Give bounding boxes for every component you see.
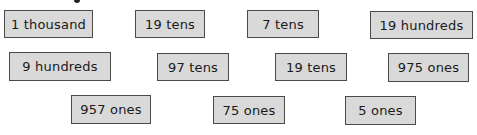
card-label: 19 tens: [286, 60, 336, 75]
cropped-heading-fragment: [74, 0, 80, 3]
card-label: 957 ones: [80, 102, 142, 117]
card-label: 5 ones: [358, 103, 403, 118]
value-card-7-tens: 7 tens: [247, 10, 319, 38]
value-card-957-ones: 957 ones: [71, 95, 151, 124]
card-label: 1 thousand: [11, 17, 86, 32]
value-card-19-tens-second: 19 tens: [275, 53, 347, 81]
value-card-75-ones: 75 ones: [213, 96, 285, 124]
card-label: 7 tens: [262, 17, 304, 32]
card-label: 19 tens: [145, 17, 195, 32]
value-card-97-tens: 97 tens: [157, 53, 229, 81]
value-card-19-tens: 19 tens: [135, 10, 205, 38]
value-card-9-hundreds: 9 hundreds: [9, 52, 111, 81]
card-label: 97 tens: [168, 60, 218, 75]
value-card-975-ones: 975 ones: [388, 53, 469, 82]
card-label: 19 hundreds: [380, 18, 464, 33]
value-card-1-thousand: 1 thousand: [4, 10, 93, 38]
value-card-5-ones: 5 ones: [345, 96, 416, 125]
card-label: 9 hundreds: [22, 59, 97, 74]
card-label: 975 ones: [398, 60, 460, 75]
card-label: 75 ones: [222, 103, 275, 118]
value-card-19-hundreds: 19 hundreds: [370, 11, 473, 39]
